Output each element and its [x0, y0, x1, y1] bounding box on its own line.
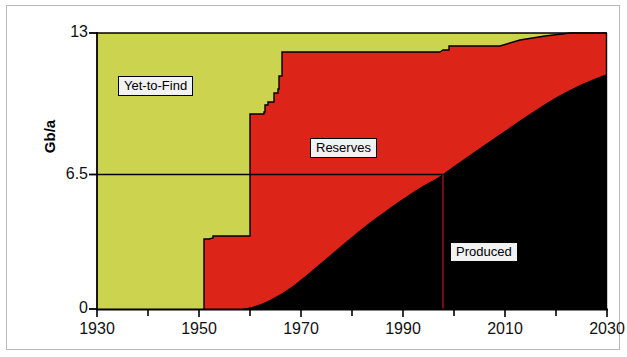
- x-tick-label-1970: 1970: [266, 320, 336, 338]
- x-tick-label-2010: 2010: [470, 320, 540, 338]
- chart-figure: Gb/a 13 6.5 0 1930 1950 1970 1990 2010 2…: [0, 0, 627, 357]
- y-tick-label-0: 0: [44, 299, 88, 317]
- x-tick-label-1950: 1950: [164, 320, 234, 338]
- y-tick-label-6-5: 6.5: [44, 165, 88, 183]
- annotation-produced: Produced: [450, 242, 518, 262]
- y-tick-marks: [89, 33, 97, 309]
- x-tick-marks: [97, 310, 607, 317]
- y-tick-label-13: 13: [44, 23, 88, 41]
- area-chart-svg: [0, 0, 627, 357]
- x-tick-label-1990: 1990: [368, 320, 438, 338]
- y-axis-title: Gb/a: [41, 102, 58, 172]
- annotation-reserves: Reserves: [310, 138, 377, 158]
- annotation-yet-to-find: Yet-to-Find: [118, 76, 193, 96]
- x-tick-label-2030: 2030: [572, 320, 627, 338]
- x-tick-label-1930: 1930: [62, 320, 132, 338]
- chart-canvas: Gb/a 13 6.5 0 1930 1950 1970 1990 2010 2…: [0, 0, 627, 357]
